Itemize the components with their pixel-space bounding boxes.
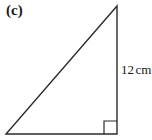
- vertical-side-value: 12: [121, 62, 134, 77]
- geometry-figure: (c) 12cm: [0, 0, 152, 140]
- vertical-side-label: 12cm: [121, 63, 151, 76]
- vertical-side-unit: cm: [136, 62, 152, 77]
- right-angle-marker-icon: [104, 121, 117, 134]
- triangle-outline: [6, 6, 117, 134]
